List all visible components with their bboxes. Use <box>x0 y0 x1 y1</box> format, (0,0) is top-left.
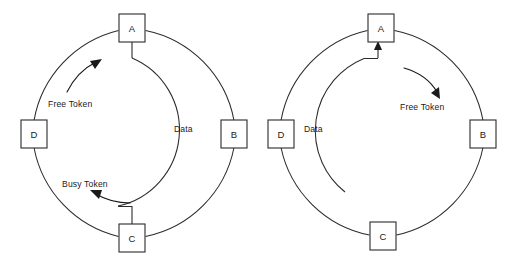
node-d-left-label: D <box>31 129 38 140</box>
node-c-left-label: C <box>129 233 136 244</box>
free-token-label-right: Free Token <box>400 102 444 112</box>
node-b-right-label: B <box>480 129 486 140</box>
outer-arc-d-to-a-right <box>281 31 368 121</box>
busy-token-arrowhead-left <box>90 190 102 199</box>
right-ring-diagram: A B C D Free Token Data <box>268 14 496 250</box>
node-c-right-label: C <box>380 231 387 242</box>
outer-arc-b-to-c-right <box>397 148 484 236</box>
node-a-right[interactable]: A <box>368 14 394 42</box>
outer-arc-c-to-d-right <box>281 148 370 236</box>
diagram-canvas: A B C D Free Token Data Busy Token <box>0 0 506 264</box>
data-label-right: Data <box>304 124 323 134</box>
data-label-left: Data <box>174 124 193 134</box>
node-a-left-label: A <box>129 23 136 34</box>
node-d-left[interactable]: D <box>21 120 47 148</box>
node-b-left[interactable]: B <box>221 120 247 148</box>
outer-arc-b-to-c <box>146 148 235 237</box>
free-token-arrow-path-right <box>404 68 437 92</box>
node-a-left[interactable]: A <box>119 14 145 42</box>
busy-token-label-left: Busy Token <box>62 179 108 189</box>
node-c-right[interactable]: C <box>370 222 396 250</box>
node-a-right-label: A <box>378 23 385 34</box>
busy-token-arrow-path-left <box>96 194 130 203</box>
free-token-label-left: Free Token <box>48 99 92 109</box>
node-b-left-label: B <box>231 129 237 140</box>
data-arc-left <box>118 58 179 206</box>
node-c-left[interactable]: C <box>119 224 145 252</box>
outer-arc-a-to-b <box>146 31 235 121</box>
free-token-arrow-path-left <box>67 62 96 92</box>
outer-arc-c-to-d <box>34 148 119 237</box>
node-d-right[interactable]: D <box>268 120 294 148</box>
node-b-right[interactable]: B <box>470 120 496 148</box>
node-d-right-label: D <box>278 129 285 140</box>
left-ring-diagram: A B C D Free Token Data Busy Token <box>21 14 247 252</box>
token-ring-figure: A B C D Free Token Data Busy Token <box>0 0 506 264</box>
